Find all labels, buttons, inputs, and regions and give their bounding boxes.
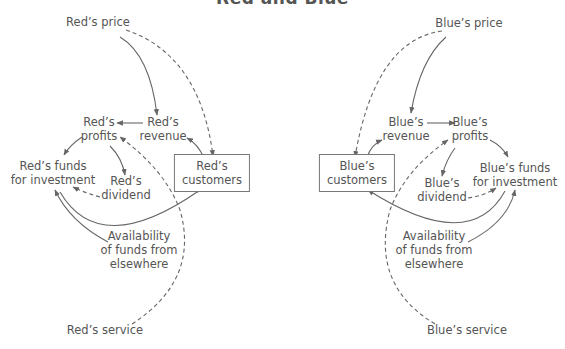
blue-customers-line1: Blue’s xyxy=(327,159,387,173)
blue-availability-line2: of funds from xyxy=(395,243,472,257)
blue-customers-node: Blue’s customers xyxy=(319,154,395,192)
red-dividend-line1: Red’s xyxy=(101,174,150,188)
red-profits-line1: Red’s xyxy=(81,115,118,129)
red-dividend-line2: dividend xyxy=(101,188,150,202)
link-profits-funds-blue xyxy=(490,140,508,157)
red-funds-line2: for investment xyxy=(11,173,95,187)
red-service-node: Red’s service xyxy=(67,323,143,337)
blue-availability-node: Availability of funds from elsewhere xyxy=(395,229,472,271)
red-availability-line3: elsewhere xyxy=(100,257,177,271)
red-revenue-line1: Red’s xyxy=(139,115,186,129)
red-availability-line2: of funds from xyxy=(100,243,177,257)
red-funds-node: Red’s funds for investment xyxy=(11,159,95,187)
blue-profits-line1: Blue’s xyxy=(452,115,489,129)
blue-profits-node: Blue’s profits xyxy=(452,115,489,143)
link-availability-funds-blue xyxy=(468,190,515,242)
blue-price-node: Blue’s price xyxy=(435,16,502,30)
blue-availability-line3: elsewhere xyxy=(395,257,472,271)
red-dividend-node: Red’s dividend xyxy=(101,174,150,202)
blue-service-node: Blue’s service xyxy=(427,323,507,337)
blue-funds-node: Blue’s funds for investment xyxy=(473,161,557,189)
link-profits-dividend-blue xyxy=(442,148,455,176)
blue-funds-line1: Blue’s funds xyxy=(473,161,557,175)
blue-profits-line2: profits xyxy=(452,129,489,143)
blue-revenue-line2: revenue xyxy=(382,129,429,143)
blue-dividend-line2: dividend xyxy=(417,190,466,204)
red-profits-node: Red’s profits xyxy=(81,115,118,143)
blue-customers-line2: customers xyxy=(327,173,387,187)
link-profits-dividend-red xyxy=(110,146,125,175)
red-customers-node: Red’s customers xyxy=(174,154,250,192)
red-availability-line1: Availability xyxy=(100,229,177,243)
link-price-revenue-red xyxy=(120,37,157,115)
red-funds-line1: Red’s funds xyxy=(11,159,95,173)
red-revenue-line2: revenue xyxy=(139,129,186,143)
blue-dividend-node: Blue’s dividend xyxy=(417,176,466,204)
blue-revenue-node: Blue’s revenue xyxy=(382,115,429,143)
link-profits-funds-red xyxy=(64,137,82,155)
blue-funds-line2: for investment xyxy=(473,175,557,189)
blue-revenue-line1: Blue’s xyxy=(382,115,429,129)
red-customers-line1: Red’s xyxy=(182,159,242,173)
blue-availability-line1: Availability xyxy=(395,229,472,243)
red-price-node: Red’s price xyxy=(66,15,130,29)
red-profits-line2: profits xyxy=(81,129,118,143)
link-dividend-funds-blue xyxy=(468,188,496,198)
blue-dividend-line1: Blue’s xyxy=(417,176,466,190)
red-revenue-node: Red’s revenue xyxy=(139,115,186,143)
link-dividend-funds-red xyxy=(73,187,100,197)
red-customers-line2: customers xyxy=(182,173,242,187)
red-availability-node: Availability of funds from elsewhere xyxy=(100,229,177,271)
link-price-revenue-blue xyxy=(411,37,446,113)
